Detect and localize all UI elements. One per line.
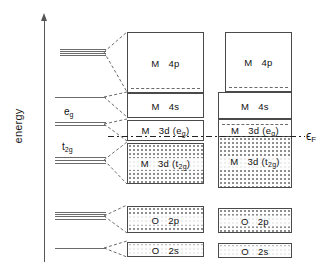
atomic-level-eg xyxy=(55,122,106,126)
band-box-left-M3d-eg: M3d (eg) xyxy=(127,120,204,141)
band-label-left-M4s: M4s xyxy=(128,100,203,111)
fermi-level-label: ϵF xyxy=(306,129,316,144)
band-label-right-M3d-t2g: M3d (t2g) xyxy=(219,156,291,168)
atomic-level-o2p xyxy=(55,212,106,219)
atomic-level-o2s xyxy=(55,248,106,249)
band-label-left-M4p: M4p xyxy=(128,57,203,68)
atomic-level-4s xyxy=(55,97,106,98)
band-label-right-O2s: O2s xyxy=(219,245,291,256)
band-box-right-O2p: O2p xyxy=(218,208,292,233)
band-label-right-O2p: O2p xyxy=(219,215,291,226)
band-dashed-edge xyxy=(131,88,200,89)
band-label-left-O2s: O2s xyxy=(128,244,203,255)
band-box-left-M3d-t2g: M3d (t2g) xyxy=(127,143,204,184)
fermi-level-line xyxy=(108,136,305,137)
orbital-3d-eg: 3d (e xyxy=(159,125,182,136)
band-box-right-M4p: M4p xyxy=(225,32,292,92)
band-box-left-O2p: O2p xyxy=(127,206,204,233)
orbital-4p: 4p xyxy=(169,57,180,68)
energy-axis-line xyxy=(44,18,45,262)
t2g-label-sub: 2g xyxy=(65,146,73,153)
species-M: M xyxy=(151,57,159,68)
energy-axis-label: energy xyxy=(12,96,24,156)
band-box-right-O2s: O2s xyxy=(218,243,292,258)
band-box-left-M4s: M4s xyxy=(127,93,204,118)
orbital-2s: 2s xyxy=(169,244,180,255)
atomic-level-t2g xyxy=(55,157,106,163)
orbital-2p: 2p xyxy=(168,214,179,225)
species-O: O xyxy=(152,214,160,225)
band-box-left-O2s: O2s xyxy=(127,242,204,257)
band-label-right-M4s: M4s xyxy=(219,100,291,111)
band-box-right-M4s: M4s xyxy=(218,92,292,119)
orbital-3d-t2g: 3d (t xyxy=(158,158,179,169)
atomic-level-4p xyxy=(60,49,106,56)
band-label-left-M3d-t2g: M3d (t2g) xyxy=(128,158,203,170)
atomic-level-t2g-label: t2g xyxy=(62,141,73,153)
band-label-right-M4p: M4p xyxy=(226,57,291,68)
band-box-right-M3d-t2g: M3d (t2g) xyxy=(218,136,292,188)
band-box-left-M4p: M4p xyxy=(127,32,204,93)
diagram-canvas: energy eg xyxy=(0,0,334,273)
eg-label-sub: g xyxy=(70,111,74,118)
band-label-left-M3d-eg: M3d (eg) xyxy=(128,125,203,137)
orbital-4s: 4s xyxy=(169,100,180,111)
band-dashed-edge xyxy=(229,87,288,88)
band-label-left-O2p: O2p xyxy=(128,214,203,225)
fermi-subscript: F xyxy=(311,135,316,144)
atomic-level-eg-label: eg xyxy=(64,106,73,118)
